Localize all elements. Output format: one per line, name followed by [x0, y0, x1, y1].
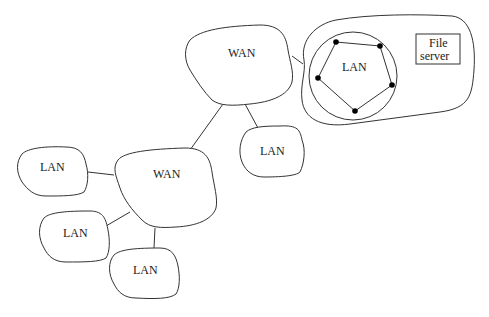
file-server-label-2: server	[420, 49, 449, 63]
wan-bottom-cloud	[115, 148, 217, 227]
link-wan-bottom-lan-lower-left	[106, 212, 130, 226]
network-diagram: LAN File server WAN LAN WAN LAN LAN LAN	[0, 0, 489, 317]
link-wan-top-lan-middle	[245, 104, 258, 128]
link-wan-top-site	[292, 56, 303, 64]
file-server-label-1: File	[429, 36, 448, 50]
station-node	[315, 75, 321, 81]
wan-bottom-label: WAN	[153, 167, 181, 181]
ring-lan-label: LAN	[342, 60, 367, 74]
station-node	[377, 43, 383, 49]
lan-lower-left-label: LAN	[63, 226, 88, 240]
wan-top-cloud	[186, 25, 293, 105]
station-node	[352, 108, 358, 114]
station-node	[333, 39, 339, 45]
station-node	[389, 82, 395, 88]
lan-left-label: LAN	[40, 160, 65, 174]
lan-middle-label: LAN	[260, 144, 285, 158]
lan-bottom-label: LAN	[133, 263, 158, 277]
ring-lan-circle	[309, 32, 397, 120]
link-wan-bottom-lan-bottom	[154, 228, 155, 248]
link-wan-top-wan-bottom	[190, 104, 223, 150]
link-wan-bottom-lan-left	[88, 172, 114, 175]
wan-top-label: WAN	[228, 46, 256, 60]
